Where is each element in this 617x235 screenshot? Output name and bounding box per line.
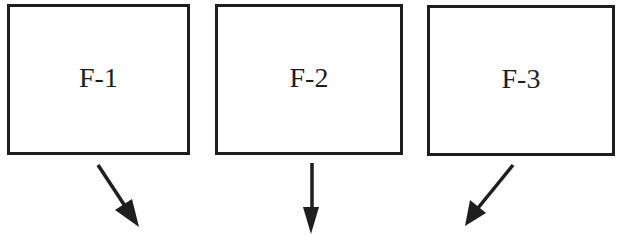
arrow-down-icon <box>303 163 319 234</box>
arrow-down-right-icon <box>98 165 139 227</box>
arrows-layer <box>0 0 617 235</box>
arrow-down-left-icon <box>465 165 513 226</box>
